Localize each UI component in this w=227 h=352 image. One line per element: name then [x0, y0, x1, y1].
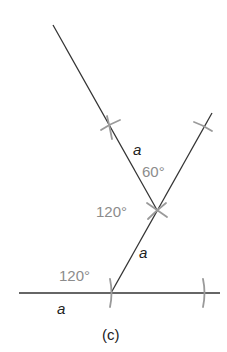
left-diagonal-line	[53, 25, 157, 210]
x-mark-intersection	[147, 203, 167, 219]
construction-diagram: a a a 60° 120° 120° (c)	[0, 0, 227, 352]
angle-label-middle: 120°	[96, 203, 127, 220]
side-label-bottom: a	[57, 300, 65, 317]
angle-label-top: 60°	[142, 163, 165, 180]
side-label-middle: a	[139, 244, 147, 261]
side-label-upper: a	[133, 141, 141, 158]
arc-mark-left-line	[101, 116, 120, 139]
angle-label-bottom: 120°	[59, 267, 90, 284]
figure-caption: (c)	[102, 326, 120, 343]
